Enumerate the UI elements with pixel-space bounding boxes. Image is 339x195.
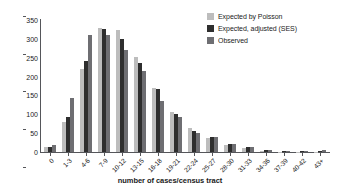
y-tick-label-5: 250 (26, 54, 41, 61)
y-tick-label-4: 200 (26, 73, 41, 80)
x-tick-label-6: 16-18 (146, 157, 163, 174)
x-tick-mark-13 (284, 153, 285, 156)
y-tick-label-7: 350 (26, 17, 41, 24)
legend-swatch-1 (207, 25, 214, 32)
legend-label-1: Expected, adjusted (SES) (218, 25, 297, 32)
x-tick-mark-5 (140, 153, 141, 156)
legend-swatch-2 (207, 37, 214, 44)
bar (232, 144, 236, 152)
y-tick-mark-5 (23, 91, 26, 92)
bar (124, 50, 128, 152)
x-tick-mark-12 (266, 153, 267, 156)
bar-group (167, 20, 185, 152)
x-axis-ticks: 01-34-67-910-1213-1516-1819-2122-2425-27… (41, 153, 329, 177)
legend-swatch-0 (207, 13, 214, 20)
x-axis-label: number of cases/census tract (40, 176, 300, 185)
x-tick-mark-9 (212, 153, 213, 156)
x-tick-mark-14 (302, 153, 303, 156)
x-tick-mark-2 (86, 153, 87, 156)
bar-group (59, 20, 77, 152)
bar (160, 101, 164, 152)
x-tick-mark-1 (68, 153, 69, 156)
bar (178, 117, 182, 152)
bar (304, 151, 308, 152)
bar (268, 150, 272, 152)
chart-legend: Expected by PoissonExpected, adjusted (S… (207, 11, 297, 47)
x-tick-2: 4-6 (77, 153, 95, 177)
legend-label-0: Expected by Poisson (218, 13, 282, 20)
y-tick-mark-3 (23, 167, 26, 168)
x-tick-mark-11 (248, 153, 249, 156)
x-tick-label-0: 0 (47, 157, 54, 164)
x-tick-mark-7 (176, 153, 177, 156)
bar (142, 71, 146, 152)
legend-item-2[interactable]: Observed (207, 35, 297, 46)
x-tick-label-1: 1-3 (61, 157, 72, 168)
bar (52, 145, 56, 152)
y-tick-label-0: 0 (34, 149, 41, 156)
x-tick-mark-8 (194, 153, 195, 156)
x-tick-10: 28-30 (221, 153, 239, 177)
x-tick-0: 0 (41, 153, 59, 177)
x-tick-14: 40-42 (293, 153, 311, 177)
x-tick-mark-6 (158, 153, 159, 156)
bar (70, 98, 74, 152)
x-tick-label-3: 7-9 (97, 157, 108, 168)
x-tick-label-12: 34-36 (254, 157, 271, 174)
x-tick-6: 16-18 (149, 153, 167, 177)
y-tick-mark-4 (23, 129, 26, 130)
bar-group (41, 20, 59, 152)
y-tick-label-3: 150 (26, 92, 41, 99)
x-tick-12: 34-36 (257, 153, 275, 177)
bar-chart: number of census tracts number of cases/… (0, 0, 339, 195)
y-tick-mark-7 (23, 16, 26, 17)
x-tick-5: 13-15 (131, 153, 149, 177)
bar (88, 35, 92, 152)
y-tick-mark-6 (23, 54, 26, 55)
x-tick-11: 31-33 (239, 153, 257, 177)
x-tick-label-10: 28-30 (218, 157, 235, 174)
x-tick-mark-4 (122, 153, 123, 156)
x-tick-mark-0 (50, 153, 51, 156)
x-tick-label-9: 25-27 (200, 157, 217, 174)
legend-item-0[interactable]: Expected by Poisson (207, 11, 297, 22)
x-tick-label-13: 37-39 (272, 157, 289, 174)
x-tick-mark-10 (230, 153, 231, 156)
x-tick-label-2: 4-6 (79, 157, 90, 168)
x-tick-13: 37-39 (275, 153, 293, 177)
bar-group (311, 20, 329, 152)
bar-group (185, 20, 203, 152)
bar (106, 35, 110, 152)
x-tick-label-15: 43+ (312, 157, 325, 170)
bar (214, 137, 218, 152)
x-tick-8: 22-24 (185, 153, 203, 177)
x-tick-label-5: 13-15 (128, 157, 145, 174)
x-tick-3: 7-9 (95, 153, 113, 177)
x-tick-label-11: 31-33 (236, 157, 253, 174)
bar-group (77, 20, 95, 152)
y-tick-label-2: 100 (26, 111, 41, 118)
bar-group (131, 20, 149, 152)
bar-group (149, 20, 167, 152)
bar-group (95, 20, 113, 152)
x-tick-label-4: 10-12 (110, 157, 127, 174)
bar (322, 150, 326, 152)
x-tick-label-7: 19-21 (164, 157, 181, 174)
x-tick-9: 25-27 (203, 153, 221, 177)
x-tick-4: 10-12 (113, 153, 131, 177)
x-tick-mark-3 (104, 153, 105, 156)
x-tick-label-14: 40-42 (290, 157, 307, 174)
bar (250, 147, 254, 152)
x-tick-15: 43+ (311, 153, 329, 177)
bar (286, 151, 290, 152)
y-tick-label-1: 50 (30, 130, 41, 137)
x-tick-mark-15 (320, 153, 321, 156)
legend-label-2: Observed (218, 37, 248, 44)
x-tick-7: 19-21 (167, 153, 185, 177)
bar-group (113, 20, 131, 152)
y-tick-label-6: 300 (26, 35, 41, 42)
x-tick-1: 1-3 (59, 153, 77, 177)
legend-item-1[interactable]: Expected, adjusted (SES) (207, 23, 297, 34)
bar (196, 133, 200, 152)
x-tick-label-8: 22-24 (182, 157, 199, 174)
